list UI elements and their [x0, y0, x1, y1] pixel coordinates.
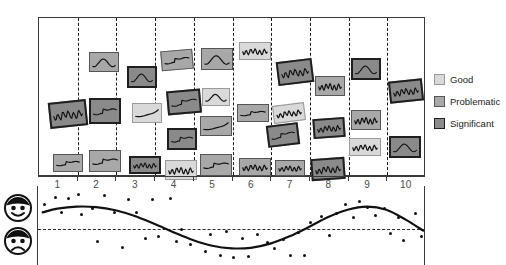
sparkline-card-significant[interactable] [166, 89, 202, 116]
bin-separator [271, 18, 272, 175]
sparkline-card-problematic[interactable] [89, 52, 119, 72]
sparkline-card-good[interactable] [132, 103, 162, 123]
x-axis-tick [270, 176, 271, 181]
chart-root: 12345678910 GoodProblematicSignificant [0, 0, 506, 265]
x-axis-label-4: 4 [161, 179, 185, 190]
sparkline-card-problematic[interactable] [200, 154, 232, 176]
sparkline-card-problematic[interactable] [275, 160, 305, 176]
legend-label-good: Good [450, 74, 473, 85]
sparkline-card-good[interactable] [202, 88, 230, 106]
x-axis-tick [193, 176, 194, 181]
x-axis-label-1: 1 [45, 179, 69, 190]
sparkline-card-significant[interactable] [388, 78, 424, 103]
legend-swatch-problematic [434, 96, 445, 107]
scatter-dot [121, 246, 124, 249]
scatter-dot [43, 203, 46, 206]
scatter-dot [266, 241, 269, 244]
sparkline-card-significant[interactable] [266, 122, 300, 148]
scatter-dot [232, 256, 235, 259]
x-axis-tick [309, 176, 310, 181]
sparkline-card-good[interactable] [349, 138, 381, 156]
scatter-dot [374, 214, 377, 217]
sparkline-card-problematic[interactable] [160, 49, 194, 72]
legend-item-good[interactable]: Good [434, 68, 506, 90]
x-axis-tick [348, 176, 349, 181]
x-axis-label-5: 5 [200, 179, 224, 190]
sparkline-card-problematic[interactable] [201, 48, 233, 70]
sparkline-card-problematic[interactable] [315, 76, 345, 96]
sparkline-card-good[interactable] [239, 42, 271, 60]
x-axis-tick [154, 176, 155, 181]
sparkline-card-significant[interactable] [389, 136, 421, 158]
legend: GoodProblematicSignificant [434, 68, 506, 134]
x-axis-label-8: 8 [316, 179, 340, 190]
scatter-dot [151, 198, 154, 201]
x-axis-tick [77, 176, 78, 181]
sparkline-card-problematic[interactable] [351, 110, 381, 130]
happy-face-icon [3, 193, 33, 227]
sparkline-card-significant[interactable] [310, 157, 345, 181]
legend-item-problematic[interactable]: Problematic [434, 90, 506, 112]
sparkline-card-significant[interactable] [127, 66, 157, 88]
sentiment-scatter-panel [38, 192, 425, 265]
sparkline-card-significant[interactable] [48, 99, 89, 129]
sparkline-card-significant[interactable] [89, 98, 121, 124]
scatter-dot [328, 234, 331, 237]
sparkline-card-significant[interactable] [129, 156, 161, 174]
bin-separator [155, 18, 156, 175]
scatter-dot [297, 231, 300, 234]
card-plot-area [38, 17, 425, 176]
legend-label-problematic: Problematic [450, 96, 500, 107]
legend-item-significant[interactable]: Significant [434, 112, 506, 134]
sparkline-card-problematic[interactable] [200, 116, 232, 136]
sparkline-card-problematic[interactable] [239, 158, 271, 176]
sparkline-card-problematic[interactable] [53, 154, 83, 172]
x-axis-tick [386, 176, 387, 181]
sparkline-card-significant[interactable] [276, 58, 315, 86]
sparkline-card-problematic[interactable] [237, 104, 269, 122]
bin-separator [78, 18, 79, 175]
scatter-dot [303, 254, 306, 257]
scatter-dot [209, 233, 212, 236]
bin-separator [233, 18, 234, 175]
scatter-dot [320, 215, 323, 218]
scatter-dot [366, 206, 369, 209]
trend-curve [38, 192, 425, 265]
sparkline-card-significant[interactable] [312, 117, 345, 139]
scatter-dot [352, 216, 355, 219]
bin-separator [310, 18, 311, 175]
x-axis-label-10: 10 [394, 179, 418, 190]
sparkline-card-significant[interactable] [167, 128, 197, 150]
sad-face-icon [3, 226, 33, 260]
sparkline-card-good[interactable] [272, 102, 306, 124]
scatter-dot [103, 194, 106, 197]
x-axis-tick [115, 176, 116, 181]
legend-swatch-significant [434, 118, 445, 129]
scatter-dot [144, 237, 147, 240]
scatter-dot [219, 254, 222, 257]
x-axis-label-9: 9 [355, 179, 379, 190]
x-axis-tick [232, 176, 233, 181]
legend-swatch-good [434, 74, 445, 85]
x-axis-label-7: 7 [278, 179, 302, 190]
x-axis-label-6: 6 [239, 179, 263, 190]
x-axis-label-3: 3 [123, 179, 147, 190]
sparkline-card-problematic[interactable] [89, 150, 121, 172]
sparkline-card-significant[interactable] [351, 58, 381, 80]
legend-label-significant: Significant [450, 118, 494, 129]
x-axis-label-2: 2 [84, 179, 108, 190]
scatter-dot [204, 250, 207, 253]
